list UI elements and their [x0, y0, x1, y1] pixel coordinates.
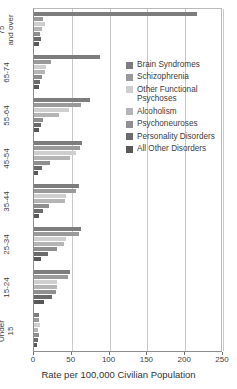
bar — [34, 113, 59, 117]
bar — [34, 171, 38, 175]
bar-row — [34, 323, 221, 327]
bar-chart: 050100150200250 Rate per 100,000 Civilia… — [0, 0, 237, 389]
bar-row — [34, 209, 221, 213]
bar-row — [34, 318, 221, 322]
bar — [34, 75, 42, 79]
bar-row — [34, 333, 221, 337]
bar — [34, 166, 42, 170]
x-tick-label: 250 — [207, 355, 237, 364]
bar — [34, 55, 100, 59]
bar — [34, 328, 38, 332]
bar-row — [34, 161, 221, 165]
bar — [34, 80, 40, 84]
y-tick-label: 15-24 — [2, 264, 11, 310]
legend-item[interactable]: Brain Syndromes — [126, 60, 234, 69]
bar-row — [34, 17, 221, 21]
bar-row — [34, 194, 221, 198]
bar — [34, 108, 69, 112]
bar — [34, 184, 79, 188]
x-tick-mark — [33, 352, 34, 355]
bar — [34, 146, 80, 150]
bar-group — [34, 270, 221, 305]
bar-row — [34, 32, 221, 36]
legend-label: Psychoneuroses — [137, 119, 198, 128]
bar-row — [34, 232, 221, 236]
legend-item[interactable]: Personality Disorders — [126, 132, 234, 141]
y-tick-label: 75and over — [0, 7, 15, 53]
legend-label: Brain Syndromes — [137, 60, 200, 69]
bar-row — [34, 290, 221, 294]
legend-swatch-icon — [126, 74, 133, 81]
bar-row — [34, 247, 221, 251]
legend-label: Other Functional Psychoses — [137, 85, 234, 104]
bar-row — [34, 171, 221, 175]
bar-row — [34, 338, 221, 342]
bar-row — [34, 242, 221, 246]
bar-row — [34, 300, 221, 304]
bar — [34, 194, 66, 198]
bar — [34, 37, 41, 41]
bar — [34, 338, 38, 342]
x-tick-mark — [71, 352, 72, 355]
bar-row — [34, 343, 221, 347]
legend-swatch-icon — [126, 121, 133, 128]
bar-row — [34, 55, 221, 59]
bar — [34, 295, 52, 299]
bar — [34, 17, 43, 21]
bar-row — [34, 280, 221, 284]
bar — [34, 318, 39, 322]
bar — [34, 204, 49, 208]
bar-row — [34, 295, 221, 299]
bar — [34, 60, 51, 64]
bar — [34, 189, 76, 193]
y-tick-label: 25-34 — [2, 221, 11, 267]
bar — [34, 98, 90, 102]
bar-row — [34, 184, 221, 188]
x-tick-mark — [222, 352, 223, 355]
bar — [34, 300, 44, 304]
bar — [34, 227, 81, 231]
x-axis-title: Rate per 100,000 Civilian Population — [0, 369, 237, 380]
bar — [34, 27, 42, 31]
bar — [34, 65, 46, 69]
bar-row — [34, 42, 221, 46]
bar-row — [34, 22, 221, 26]
bar — [34, 161, 50, 165]
bar — [34, 199, 65, 203]
bar — [34, 42, 39, 46]
bar — [34, 280, 57, 284]
legend-label: Schizophrenia — [137, 72, 189, 81]
bar — [34, 118, 43, 122]
bar-row — [34, 199, 221, 203]
legend-item[interactable]: Other Functional Psychoses — [126, 85, 234, 104]
bar-row — [34, 257, 221, 261]
legend-label: Alcoholism — [137, 107, 177, 116]
x-tick-mark — [184, 352, 185, 355]
x-tick-mark — [146, 352, 147, 355]
bar-group — [34, 12, 221, 47]
x-tick-label: 0 — [18, 355, 48, 364]
legend-item[interactable]: Schizophrenia — [126, 72, 234, 81]
bar — [34, 22, 45, 26]
bar-row — [34, 285, 221, 289]
bar — [34, 313, 39, 317]
bar-group — [34, 227, 221, 262]
bar-row — [34, 237, 221, 241]
bar-row — [34, 189, 221, 193]
legend-item[interactable]: Alcoholism — [126, 107, 234, 116]
bar-row — [34, 227, 221, 231]
bar-row — [34, 12, 221, 16]
bar — [34, 247, 57, 251]
bar — [34, 232, 79, 236]
y-tick-label: 65-74 — [2, 49, 11, 95]
x-tick-label: 150 — [131, 355, 161, 364]
bar-row — [34, 252, 221, 256]
bar — [34, 70, 45, 74]
bar — [34, 12, 197, 16]
legend-item[interactable]: All Other Disorders — [126, 144, 234, 153]
legend-item[interactable]: Psychoneuroses — [126, 119, 234, 128]
bar — [34, 209, 43, 213]
y-tick-label: 35-44 — [2, 178, 11, 224]
bar-row — [34, 204, 221, 208]
bar — [34, 123, 41, 127]
